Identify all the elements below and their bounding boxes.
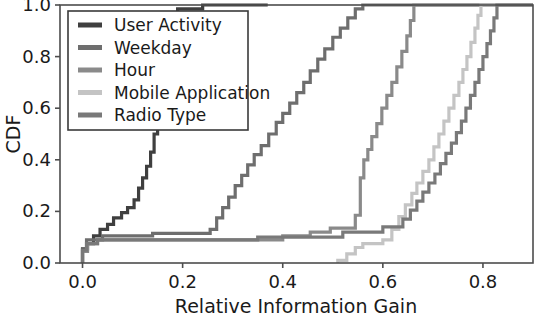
y-tick-label: 0.6	[22, 97, 51, 118]
y-axis-label: CDF	[2, 115, 24, 154]
x-tick-label: 0.6	[369, 271, 398, 292]
cdf-plot: 0.00.20.40.60.8 0.00.20.40.60.81.0 Relat…	[0, 0, 540, 319]
x-tick-label: 0.8	[469, 271, 498, 292]
y-tick-label: 0.8	[22, 46, 51, 67]
x-tick-label: 0.2	[168, 271, 197, 292]
y-tick-label: 0.2	[22, 200, 51, 221]
legend-label-radio-type: Radio Type	[114, 105, 206, 125]
x-axis-ticks: 0.00.20.40.60.8	[68, 263, 497, 292]
y-tick-label: 0.0	[22, 252, 51, 273]
legend-label-hour: Hour	[114, 60, 155, 80]
y-axis-ticks: 0.00.20.40.60.81.0	[22, 0, 60, 273]
legend-label-mobile-application: Mobile Application	[114, 83, 270, 103]
y-tick-label: 1.0	[22, 0, 51, 15]
legend: User ActivityWeekdayHourMobile Applicati…	[68, 11, 270, 130]
x-tick-label: 0.0	[68, 271, 97, 292]
legend-label-user-activity: User Activity	[114, 15, 222, 35]
x-axis-label: Relative Information Gain	[175, 295, 417, 317]
x-tick-label: 0.4	[268, 271, 297, 292]
legend-label-weekday: Weekday	[114, 38, 192, 58]
figure: 0.00.20.40.60.8 0.00.20.40.60.81.0 Relat…	[0, 0, 540, 319]
y-tick-label: 0.4	[22, 149, 51, 170]
